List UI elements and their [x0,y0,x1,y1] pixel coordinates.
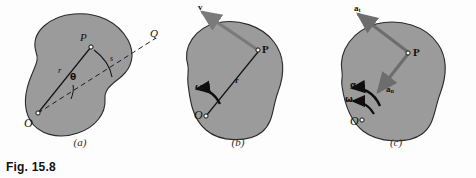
label-a-n-c: an [386,84,394,94]
label-omega-c: ω [345,94,353,104]
panel-b: O P r v ω (b) [158,0,318,150]
panel-c-graphic [316,0,476,150]
point-marker-o-a [36,111,40,115]
label-s-a: s [110,54,113,63]
panel-caption-a: (a) [0,136,160,148]
label-o-a: O [24,116,33,131]
label-r-b: r [235,76,239,85]
point-marker-p-c [406,51,410,55]
label-p-b: P [262,43,269,55]
label-a-n-subscript: n [391,88,394,94]
label-o-c: O [350,114,359,129]
point-marker-o-c [360,118,364,122]
figure-15-8: O P r θ s Q (a) [0,0,476,178]
label-v-b: v [198,2,203,12]
label-p-c: P [413,46,420,58]
label-omega-b: ω [195,82,203,92]
label-alpha-c: α [350,80,356,90]
label-a-t-c: at [354,3,361,13]
panel-c: O P at an α ω (c) [316,0,476,150]
label-q-a: Q [150,27,158,39]
label-o-b: O [194,108,203,123]
figure-caption: Fig. 15.8 [6,160,56,174]
label-theta-a: θ [70,72,76,82]
panel-caption-b: (b) [158,136,318,148]
panel-b-graphic [158,0,318,150]
rigid-body-shape-a [26,14,132,136]
label-a-t-subscript: t [359,7,361,13]
label-p-a: P [80,31,87,43]
point-marker-p-a [89,45,93,49]
point-marker-o-b [204,114,208,118]
panel-a: O P r θ s Q (a) [0,0,160,150]
panel-caption-c: (c) [316,136,476,148]
point-marker-p-b [256,48,260,52]
label-r-a: r [58,65,62,75]
